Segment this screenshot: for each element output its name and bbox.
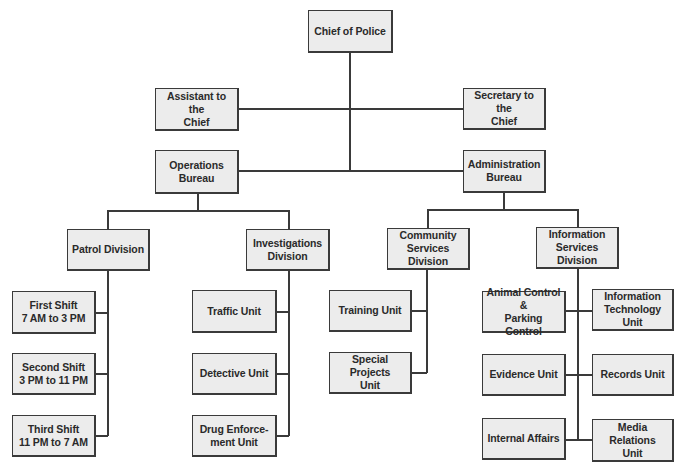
connector-drug: [276, 435, 289, 437]
node-training-unit[interactable]: Training Unit: [329, 290, 412, 332]
node-animal-control[interactable]: Animal Control & Parking Control: [482, 291, 566, 333]
connector-administration-horizontal: [427, 209, 578, 211]
connector-administration-down: [503, 192, 505, 210]
connector-community-up: [427, 209, 429, 228]
connector-operations-down: [197, 193, 199, 211]
connector-investigations-trunk: [288, 270, 290, 436]
org-chart: Chief of Police Assistant to the Chief S…: [0, 0, 683, 476]
node-evidence-unit[interactable]: Evidence Unit: [482, 354, 566, 396]
connector-information-trunk: [577, 268, 579, 440]
connector-investigations-up: [288, 210, 290, 229]
node-drug-enforcement-unit[interactable]: Drug Enforce- ment Unit: [192, 415, 277, 457]
connector-special-projects: [411, 372, 427, 374]
node-chief-of-police[interactable]: Chief of Police: [308, 10, 393, 53]
connector-traffic: [276, 311, 289, 313]
node-internal-affairs[interactable]: Internal Affairs: [482, 418, 566, 460]
connector-third-shift: [95, 435, 108, 437]
node-community-services-division[interactable]: Community Services Division: [387, 228, 470, 270]
node-media-relations-unit[interactable]: Media Relations Unit: [592, 419, 674, 462]
connector-chief-trunk: [349, 52, 351, 172]
connector-training: [411, 310, 427, 312]
node-administration-bureau[interactable]: Administration Bureau: [463, 150, 546, 193]
node-information-services-division[interactable]: Information Services Division: [536, 227, 619, 269]
connector-community-trunk: [426, 269, 428, 373]
connector-patrol-up: [107, 210, 109, 229]
node-operations-bureau[interactable]: Operations Bureau: [155, 150, 239, 194]
connector-row3: [565, 439, 592, 441]
node-patrol-division[interactable]: Patrol Division: [67, 229, 150, 271]
node-detective-unit[interactable]: Detective Unit: [192, 353, 277, 395]
node-information-technology-unit[interactable]: Information Technology Unit: [592, 289, 674, 331]
connector-staff-horizontal: [238, 108, 463, 110]
node-assistant-to-chief[interactable]: Assistant to the Chief: [155, 88, 239, 131]
node-investigations-division[interactable]: Investigations Division: [246, 229, 330, 271]
node-records-unit[interactable]: Records Unit: [592, 354, 674, 396]
node-traffic-unit[interactable]: Traffic Unit: [192, 290, 277, 333]
connector-bureaus-horizontal: [238, 170, 463, 172]
connector-row1: [565, 310, 592, 312]
node-first-shift[interactable]: First Shift 7 AM to 3 PM: [12, 291, 96, 334]
node-third-shift[interactable]: Third Shift 11 PM to 7 AM: [12, 415, 96, 457]
connector-first-shift: [95, 312, 108, 314]
connector-patrol-trunk: [107, 270, 109, 436]
connector-operations-horizontal: [107, 210, 289, 212]
node-second-shift[interactable]: Second Shift 3 PM to 11 PM: [12, 353, 96, 395]
connector-row2: [565, 374, 592, 376]
connector-second-shift: [95, 373, 108, 375]
node-secretary-to-chief[interactable]: Secretary to the Chief: [463, 88, 546, 130]
node-special-projects-unit[interactable]: Special Projects Unit: [329, 352, 412, 394]
connector-information-up: [577, 209, 579, 227]
connector-detective: [276, 373, 289, 375]
